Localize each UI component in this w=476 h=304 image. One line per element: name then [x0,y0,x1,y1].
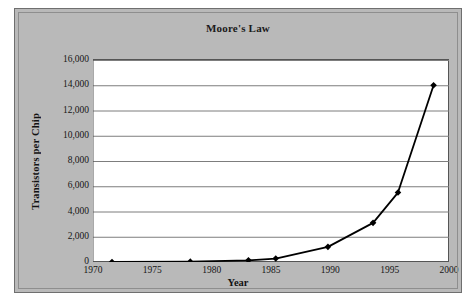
chart-title: Moore's Law [15,22,461,34]
x-tick-label: 2000 [427,265,471,275]
data-point-marker [430,82,437,89]
y-tick-label: 16,000 [37,54,89,64]
y-tick-label: 14,000 [37,79,89,89]
x-tick-label: 1985 [249,265,293,275]
data-point-marker [272,255,279,262]
x-axis-title: Year [15,277,461,288]
gridlines [93,61,449,263]
y-tick-label: 4,000 [37,206,89,216]
y-tick-label: 6,000 [37,180,89,190]
x-tick-label: 1975 [130,265,174,275]
data-point-markers [109,82,437,262]
data-point-marker [109,259,116,262]
data-point-marker [187,258,194,262]
chart-plot-svg [93,60,449,262]
data-point-marker [325,244,332,251]
y-tick-label: 12,000 [37,105,89,115]
data-point-marker [245,257,252,262]
x-tick-label: 1970 [71,265,115,275]
y-tick-label: 2,000 [37,231,89,241]
y-axis-tick-labels: 02,0004,0006,0008,00010,00012,00014,0001… [33,59,89,261]
x-tick-label: 1990 [308,265,352,275]
chart-container: Moore's Law Transistors per Chip 02,0004… [14,8,462,293]
y-tick-label: 10,000 [37,130,89,140]
x-tick-label: 1980 [190,265,234,275]
x-tick-label: 1995 [368,265,412,275]
plot-area [93,59,449,261]
data-series-line [112,85,434,262]
y-tick-label: 8,000 [37,155,89,165]
